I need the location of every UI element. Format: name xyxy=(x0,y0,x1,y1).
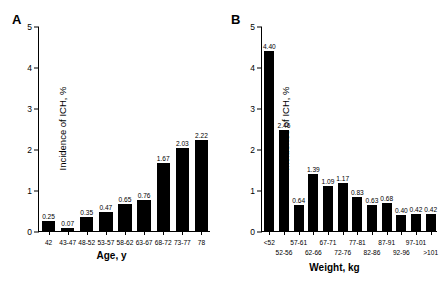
x-tick-label: <52 xyxy=(264,239,275,246)
panel-b-letter: B xyxy=(231,12,240,27)
bar xyxy=(99,212,112,231)
bar xyxy=(137,200,150,231)
x-tick-label: 77-81 xyxy=(349,239,366,246)
x-tick-label: 53-57 xyxy=(97,239,114,246)
x-tick-mark xyxy=(68,231,69,235)
x-tick-label: 78 xyxy=(198,239,205,246)
bar-value-label: 0.68 xyxy=(380,195,393,202)
bar xyxy=(338,183,348,231)
panel-b-x-axis-label: Weight, kg xyxy=(223,262,446,273)
bar xyxy=(176,148,189,231)
x-tick-mark xyxy=(106,231,107,235)
bar-value-label: 0.64 xyxy=(292,197,305,204)
y-tick-label: 5 xyxy=(250,22,255,32)
bar xyxy=(195,140,208,231)
bar-value-label: 0.40 xyxy=(395,207,408,214)
bar-value-label: 1.09 xyxy=(322,178,335,185)
x-tick-label: >101 xyxy=(423,249,438,256)
y-tick-mark xyxy=(34,150,39,151)
bar-value-label: 0.25 xyxy=(42,213,55,220)
x-tick-label: 48-52 xyxy=(78,239,95,246)
bar xyxy=(323,186,333,231)
panel-a-letter: A xyxy=(12,12,21,27)
y-tick-label: 3 xyxy=(250,104,255,114)
y-tick-label: 5 xyxy=(27,22,32,32)
panel-b: B Incidence of ICH, % 012345 4.402.460.6… xyxy=(223,0,446,286)
x-tick-label: 82-86 xyxy=(364,249,381,256)
bar-value-label: 2.22 xyxy=(195,132,208,139)
bar-value-label: 0.47 xyxy=(99,204,112,211)
x-tick-mark xyxy=(313,231,314,235)
y-tick-label: 4 xyxy=(27,63,32,73)
bar xyxy=(396,215,406,231)
bar-value-label: 0.42 xyxy=(424,206,437,213)
y-tick-mark xyxy=(257,109,262,110)
bar-value-label: 1.39 xyxy=(307,166,320,173)
x-tick-mark xyxy=(416,231,417,235)
x-tick-label: 87-91 xyxy=(378,239,395,246)
y-tick-label: 1 xyxy=(27,186,32,196)
y-tick-mark xyxy=(34,109,39,110)
bar xyxy=(118,204,131,231)
bar-value-label: 1.17 xyxy=(336,175,349,182)
x-tick-label: 73-77 xyxy=(174,239,191,246)
bar-value-label: 0.65 xyxy=(119,196,132,203)
bar xyxy=(157,163,170,231)
y-tick-label: 0 xyxy=(250,227,255,237)
x-tick-label: 67-71 xyxy=(320,239,337,246)
y-tick-label: 4 xyxy=(250,63,255,73)
x-tick-mark xyxy=(372,231,373,235)
panel-b-plot-area: Incidence of ICH, % 012345 4.402.460.641… xyxy=(261,27,437,232)
x-tick-label: 92-96 xyxy=(393,249,410,256)
x-tick-label: 62-66 xyxy=(305,249,322,256)
bar-value-label: 0.76 xyxy=(138,192,151,199)
bar xyxy=(80,217,93,231)
bar xyxy=(294,205,304,231)
x-tick-label: 42 xyxy=(45,239,52,246)
panel-a-plot-area: Incidence of ICH, % 012345 0.250.070.350… xyxy=(38,27,210,232)
x-tick-mark xyxy=(163,231,164,235)
bar-value-label: 1.67 xyxy=(157,155,170,162)
x-tick-label: 52-56 xyxy=(276,249,293,256)
x-tick-mark xyxy=(343,231,344,235)
bar xyxy=(42,221,55,231)
bar-value-label: 2.46 xyxy=(278,122,291,129)
y-tick-mark xyxy=(34,27,39,28)
bar xyxy=(426,214,436,231)
bar xyxy=(264,51,274,231)
bar-value-label: 0.07 xyxy=(61,220,74,227)
x-tick-mark xyxy=(144,231,145,235)
x-tick-mark xyxy=(299,231,300,235)
x-tick-mark xyxy=(269,231,270,235)
x-tick-label: 58-62 xyxy=(117,239,134,246)
y-tick-label: 2 xyxy=(250,145,255,155)
bar xyxy=(411,214,421,231)
y-tick-mark xyxy=(257,27,262,28)
x-tick-mark xyxy=(431,231,432,235)
y-tick-mark xyxy=(257,150,262,151)
y-tick-label: 1 xyxy=(250,186,255,196)
bar xyxy=(308,174,318,231)
x-tick-label: 97-101 xyxy=(406,239,427,246)
bar-value-label: 0.83 xyxy=(351,189,364,196)
x-tick-label: 57-61 xyxy=(290,239,307,246)
x-tick-label: 68-72 xyxy=(155,239,172,246)
x-tick-mark xyxy=(387,231,388,235)
x-tick-mark xyxy=(49,231,50,235)
y-tick-label: 0 xyxy=(27,227,32,237)
panel-a-y-axis-label: Incidence of ICH, % xyxy=(57,59,68,199)
figure-container: A Incidence of ICH, % 012345 0.250.070.3… xyxy=(0,0,446,286)
y-tick-label: 2 xyxy=(27,145,32,155)
y-tick-mark xyxy=(34,232,39,233)
bar xyxy=(352,197,362,231)
x-tick-mark xyxy=(357,231,358,235)
x-tick-mark xyxy=(284,231,285,235)
y-tick-label: 3 xyxy=(27,104,32,114)
bar-value-label: 2.03 xyxy=(176,140,189,147)
y-tick-mark xyxy=(257,191,262,192)
bar xyxy=(382,203,392,231)
y-tick-mark xyxy=(257,232,262,233)
bar-value-label: 0.63 xyxy=(366,197,379,204)
bar-value-label: 0.35 xyxy=(80,209,93,216)
bar-value-label: 0.42 xyxy=(410,206,423,213)
